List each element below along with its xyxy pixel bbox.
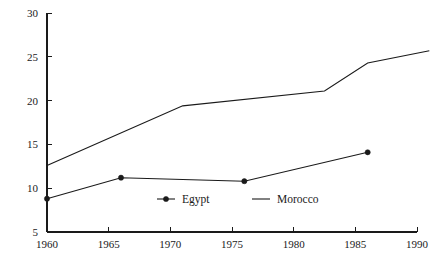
x-tick-label-1960: 1960: [36, 238, 59, 250]
data-point-egypt-1966: [118, 175, 123, 180]
x-tick-label-1990: 1990: [406, 238, 429, 250]
data-point-egypt-1986: [365, 150, 370, 155]
y-axis: 51015202530: [27, 7, 52, 238]
y-tick-label-15: 15: [27, 138, 39, 150]
legend-marker-egypt: [163, 196, 168, 201]
y-tick-label-20: 20: [27, 95, 39, 107]
series-line-egypt: [47, 152, 368, 198]
chart-canvas: 51015202530 1960196519701975198019851990…: [0, 0, 444, 262]
x-tick-label-1965: 1965: [98, 238, 121, 250]
y-tick-label-5: 5: [33, 226, 39, 238]
y-tick-label-10: 10: [27, 182, 39, 194]
data-point-egypt-1960: [44, 196, 49, 201]
series-line-morocco: [47, 51, 429, 166]
data-series-group: [44, 51, 429, 202]
legend-label-egypt: Egypt: [182, 193, 210, 206]
x-tick-label-1970: 1970: [159, 238, 182, 250]
chart-legend: EgyptMorocco: [157, 193, 319, 206]
data-point-egypt-1976: [242, 179, 247, 184]
x-tick-label-1975: 1975: [221, 238, 244, 250]
line-chart: 51015202530 1960196519701975198019851990…: [0, 0, 444, 262]
y-axis-tick-labels: 51015202530: [27, 7, 39, 238]
x-tick-label-1985: 1985: [344, 238, 367, 250]
x-axis-tick-labels: 1960196519701975198019851990: [36, 238, 429, 250]
y-tick-label-30: 30: [27, 7, 39, 19]
legend-item-egypt: Egypt: [157, 193, 210, 206]
legend-label-morocco: Morocco: [277, 193, 319, 205]
legend-item-morocco: Morocco: [252, 193, 319, 205]
x-axis: 1960196519701975198019851990: [36, 227, 429, 250]
x-axis-ticks: [47, 227, 417, 232]
y-tick-label-25: 25: [27, 51, 39, 63]
x-tick-label-1980: 1980: [283, 238, 306, 250]
